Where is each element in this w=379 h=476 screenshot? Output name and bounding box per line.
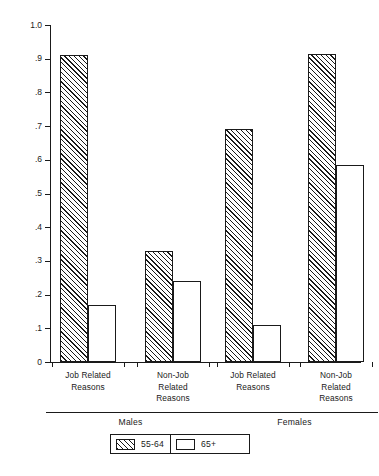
legend-label-55-64: 55-64 [141, 440, 164, 449]
x-tick-mark [52, 362, 53, 367]
bar [225, 129, 253, 362]
y-tick-label: .9 [4, 54, 42, 63]
category-label: Job RelatedReasons [46, 370, 130, 393]
category-label: Non-JobRelatedReasons [294, 370, 378, 405]
y-tick-label: .3 [4, 256, 42, 265]
bar [336, 165, 364, 362]
y-tick-mark [45, 328, 50, 329]
category-label-line: Reasons [131, 393, 215, 405]
category-label: Non-JobRelatedReasons [131, 370, 215, 405]
bar-chart: Millions 1.0.9.8.7.6.5.4.3.2.10 Job Rela… [0, 0, 379, 476]
category-label-line: Reasons [46, 382, 130, 394]
bar [60, 55, 88, 362]
y-tick-label: .1 [4, 324, 42, 333]
group-rule [46, 412, 215, 413]
x-tick-mark [300, 362, 301, 367]
y-tick-mark [45, 25, 50, 26]
category-label-line: Related [294, 382, 378, 394]
x-tick-mark [289, 362, 290, 367]
chart-legend: 55-64 65+ [110, 434, 250, 454]
x-axis-line [50, 362, 361, 363]
y-tick-mark [45, 194, 50, 195]
y-tick-label: .5 [4, 189, 42, 198]
y-tick-mark [45, 362, 50, 363]
y-tick-mark [45, 59, 50, 60]
bar [308, 54, 336, 362]
x-tick-mark [217, 362, 218, 367]
y-axis-line [50, 25, 51, 363]
bar [173, 281, 201, 362]
x-tick-mark [124, 362, 125, 367]
hatched-swatch-icon [116, 439, 135, 450]
legend-label-65-plus: 65+ [201, 440, 216, 449]
x-tick-mark [372, 362, 373, 367]
bar [145, 251, 173, 362]
category-label-line: Non-Job [294, 370, 378, 382]
category-label-line: Related [131, 382, 215, 394]
x-tick-mark [137, 362, 138, 367]
y-tick-label: .7 [4, 122, 42, 131]
y-tick-mark [45, 227, 50, 228]
category-label-line: Job Related [211, 370, 295, 382]
bar [253, 325, 281, 362]
category-label-line: Job Related [46, 370, 130, 382]
x-tick-mark [209, 362, 210, 367]
y-tick-label: .8 [4, 88, 42, 97]
y-tick-mark [45, 295, 50, 296]
y-tick-mark [45, 261, 50, 262]
y-tick-mark [45, 126, 50, 127]
category-label-line: Reasons [294, 393, 378, 405]
y-tick-label: 0 [4, 358, 42, 367]
group-label: Males [46, 418, 215, 427]
category-label-line: Non-Job [131, 370, 215, 382]
bar [88, 305, 116, 362]
group-label: Females [211, 418, 378, 427]
y-tick-mark [45, 160, 50, 161]
legend-item-65-plus: 65+ [170, 435, 222, 453]
category-label: Job RelatedReasons [211, 370, 295, 393]
y-tick-label: 1.0 [4, 21, 42, 30]
y-tick-label: .2 [4, 290, 42, 299]
y-tick-mark [45, 92, 50, 93]
legend-item-55-64: 55-64 [111, 435, 170, 453]
category-label-line: Reasons [211, 382, 295, 394]
group-rule [211, 412, 378, 413]
white-swatch-icon [176, 439, 195, 450]
y-tick-label: .4 [4, 223, 42, 232]
y-tick-label: .6 [4, 155, 42, 164]
